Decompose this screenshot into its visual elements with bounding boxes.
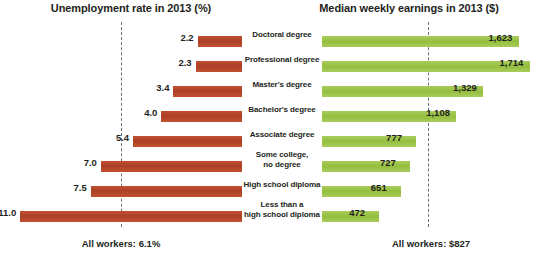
- category-label: Associate degree: [242, 122, 322, 147]
- unemployment-bar: [101, 161, 242, 172]
- earnings-value-label: 472: [349, 207, 365, 218]
- earnings-bar: [322, 186, 401, 197]
- earnings-value-label: 727: [380, 157, 396, 168]
- earnings-bar: [322, 136, 416, 147]
- earnings-value-label: 1,623: [489, 32, 513, 43]
- unemployment-bar: [173, 86, 242, 97]
- unemployment-value-label: 2.2: [180, 32, 193, 43]
- unemployment-value-label: 2.3: [178, 57, 191, 68]
- category-label-text: Doctoral degree: [252, 30, 311, 40]
- earnings-row: 1,329: [322, 79, 540, 104]
- unemployment-value-label: 11.0: [0, 207, 16, 218]
- unemployment-row: 4.0: [0, 104, 242, 129]
- category-label: High school diploma: [242, 172, 322, 197]
- unemployment-bar: [161, 111, 242, 122]
- category-label-text: Some college,no degree: [256, 150, 309, 169]
- earnings-row: 777: [322, 129, 540, 154]
- unemployment-plot-area: 2.22.33.44.05.47.07.511.0: [0, 22, 242, 227]
- category-label-text: Associate degree: [250, 130, 315, 140]
- left-chart-title: Unemployment rate in 2013 (%): [0, 2, 262, 14]
- earnings-row: 472: [322, 204, 540, 229]
- category-label-text: Less than ahigh school diploma: [244, 200, 320, 219]
- category-label: Doctoral degree: [242, 22, 322, 47]
- earnings-value-label: 651: [371, 182, 387, 193]
- earnings-average-label: All workers: $827: [322, 238, 540, 249]
- unemployment-row: 2.3: [0, 54, 242, 79]
- earnings-value-label: 777: [386, 132, 402, 143]
- unemployment-average-label: All workers: 6.1%: [0, 238, 242, 249]
- earnings-plot-area: 1,6231,7141,3291,108777727651472: [322, 22, 540, 227]
- earnings-row: 727: [322, 154, 540, 179]
- earnings-row: 1,623: [322, 29, 540, 54]
- unemployment-value-label: 4.0: [144, 107, 157, 118]
- unemployment-row: 7.5: [0, 179, 242, 204]
- earnings-value-label: 1,714: [500, 57, 524, 68]
- unemployment-value-label: 5.4: [116, 132, 129, 143]
- category-label-column: Doctoral degreeProfessional degreeMaster…: [242, 22, 322, 227]
- unemployment-row: 7.0: [0, 154, 242, 179]
- earnings-value-label: 1,329: [453, 82, 477, 93]
- education-pays-chart: Unemployment rate in 2013 (%) Median wee…: [0, 0, 540, 253]
- unemployment-row: 11.0: [0, 204, 242, 229]
- earnings-row: 1,108: [322, 104, 540, 129]
- category-label-text: High school diploma: [244, 180, 321, 190]
- category-label: Master's degree: [242, 72, 322, 97]
- earnings-row: 651: [322, 179, 540, 204]
- category-label-text: Professional degree: [245, 55, 320, 65]
- earnings-bar: [322, 61, 530, 72]
- category-label: Some college,no degree: [242, 147, 322, 172]
- right-chart-title: Median weekly earnings in 2013 ($): [278, 2, 540, 14]
- earnings-bar: [322, 161, 410, 172]
- category-label: Bachelor's degree: [242, 97, 322, 122]
- earnings-value-label: 1,108: [426, 107, 450, 118]
- category-label-text: Bachelor's degree: [248, 105, 315, 115]
- unemployment-bar: [196, 61, 242, 72]
- earnings-row: 1,714: [322, 54, 540, 79]
- unemployment-value-label: 7.0: [84, 157, 97, 168]
- unemployment-bar: [91, 186, 242, 197]
- unemployment-row: 5.4: [0, 129, 242, 154]
- unemployment-bar: [20, 211, 242, 222]
- category-label-text: Master's degree: [252, 80, 311, 90]
- unemployment-row: 2.2: [0, 29, 242, 54]
- unemployment-bar: [198, 36, 242, 47]
- unemployment-bar: [133, 136, 242, 147]
- unemployment-row: 3.4: [0, 79, 242, 104]
- unemployment-value-label: 3.4: [156, 82, 169, 93]
- category-label: Professional degree: [242, 47, 322, 72]
- category-label: Less than ahigh school diploma: [242, 197, 322, 222]
- unemployment-value-label: 7.5: [74, 182, 87, 193]
